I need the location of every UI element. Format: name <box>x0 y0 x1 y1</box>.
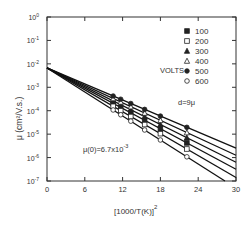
x-tick-label: 30 <box>232 185 240 194</box>
marker-square <box>185 39 190 44</box>
legend-label-400: 400 <box>195 57 209 66</box>
y-tick-label: 10-3 <box>27 82 39 91</box>
legend-label-200: 200 <box>195 37 209 46</box>
marker-circle <box>128 119 133 124</box>
thickness-annotation: d=9μ <box>178 98 195 107</box>
y-tick-label: 10-2 <box>27 59 39 68</box>
y-tick-label: 10-5 <box>27 129 39 138</box>
y-tick-label: 10-1 <box>27 35 39 44</box>
x-tick-label: 0 <box>45 185 49 194</box>
marker-square <box>185 29 190 34</box>
mobility-chart: 061218243010010-110-210-310-410-510-610-… <box>0 0 252 225</box>
x-tick-label: 6 <box>83 185 87 194</box>
legend-label-300: 300 <box>195 47 209 56</box>
marker-circle <box>118 112 123 117</box>
y-tick-label: 10-7 <box>27 176 39 185</box>
y-axis-label: μ (cm²/V.s.) <box>14 97 24 140</box>
marker-circle <box>128 101 133 106</box>
x-tick-label: 12 <box>118 185 126 194</box>
x-tick-label: 24 <box>194 185 202 194</box>
y-tick-label: 100 <box>28 12 39 21</box>
marker-circle <box>185 79 190 84</box>
marker-circle <box>185 125 190 130</box>
marker-triangle <box>184 58 189 63</box>
x-tick-label: 18 <box>156 185 164 194</box>
legend-label-600: 600 <box>195 77 209 86</box>
legend-label-100: 100 <box>195 27 209 36</box>
marker-square <box>128 114 133 119</box>
marker-square <box>185 147 190 152</box>
mu0-annotation: μ(0)=6.7x10-3 <box>83 143 128 154</box>
marker-circle <box>142 107 147 112</box>
marker-circle <box>111 108 116 113</box>
legend-title: VOLTS <box>160 66 184 75</box>
marker-square <box>185 141 190 146</box>
x-axis-label: [1000/T(K)]2 <box>114 204 158 216</box>
y-tick-label: 10-4 <box>27 106 39 115</box>
marker-circle <box>185 155 190 160</box>
y-tick-label: 10-6 <box>27 153 39 162</box>
legend: 100200300400500600 <box>184 27 208 86</box>
marker-circle <box>142 128 147 133</box>
marker-circle <box>118 97 123 102</box>
marker-circle <box>158 138 163 143</box>
marker-circle <box>185 69 190 74</box>
marker-square <box>142 122 147 127</box>
marker-triangle <box>184 48 189 53</box>
marker-circle <box>158 114 163 119</box>
marker-square <box>158 131 163 136</box>
marker-circle <box>111 94 116 99</box>
legend-label-500: 500 <box>195 67 209 76</box>
